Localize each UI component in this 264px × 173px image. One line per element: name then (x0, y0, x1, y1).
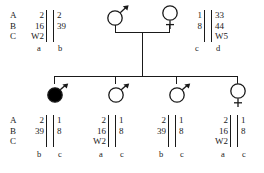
haplotype-block-mother-c: 1 8 (188, 10, 202, 31)
locus-label-b: B (10, 126, 17, 137)
haplotype-block-father-a: 2 16 W2 (22, 10, 44, 42)
allele-locus-b: 8 (57, 126, 74, 137)
haplotype-letter-child-3-right: c (176, 150, 188, 159)
allele-locus-a: 2 (80, 115, 106, 126)
allele-a-locus-a: 2 (22, 10, 44, 21)
allele-locus-a: 2 (144, 115, 166, 126)
mating-stub-father (115, 25, 116, 33)
locus-label-a: A (10, 10, 17, 21)
locus-label-c: C (10, 31, 17, 42)
haplotype-block-child-2-left: 2 16 W2 (80, 115, 106, 147)
haplotype-bar (115, 115, 116, 147)
haplotype-letter-child-4-left: a (217, 150, 229, 159)
locus-label-b: B (10, 21, 17, 32)
haplotype-block-child-4-right: 1 8 (237, 115, 258, 136)
haplotype-letter-child-1-left: b (33, 150, 45, 159)
haplotype-bar (237, 115, 238, 147)
haplotype-block-child-4-left: 2 16 W2 (202, 115, 228, 147)
haplotype-letter-mother-c: c (191, 44, 203, 53)
haplotype-block-child-1-left: 2 39 (22, 115, 44, 136)
haplotype-letter-father-a: a (33, 44, 45, 53)
allele-d-locus-c: W5 (215, 31, 239, 42)
allele-locus-b: 16 (202, 126, 228, 137)
haplotype-letter-father-b: b (54, 44, 66, 53)
haplotype-block-mother-d: 33 44 W5 (211, 10, 239, 42)
allele-c-locus-a: 1 (188, 10, 202, 21)
locus-labels-bottom: A B C (10, 115, 17, 147)
haplotype-letter-child-4-right: c (238, 150, 250, 159)
allele-a-locus-c: W2 (22, 31, 44, 42)
mating-stub-mother (169, 25, 170, 33)
allele-b-locus-b: 39 (57, 21, 74, 32)
haplotype-letter-child-2-left: a (95, 150, 107, 159)
haplotype-bar (168, 115, 169, 147)
haplotype-block-child-1-right: 1 8 (53, 115, 74, 136)
allele-locus-b: 16 (80, 126, 106, 137)
allele-b-locus-a: 2 (57, 10, 74, 21)
allele-locus-a: 1 (119, 115, 136, 126)
haplotype-bar (46, 115, 47, 147)
individual-child-2-mars-icon[interactable] (107, 83, 123, 105)
allele-a-locus-b: 16 (22, 21, 44, 32)
haplotype-bar (53, 10, 54, 42)
haplotype-letter-mother-d: d (212, 44, 224, 53)
individual-child-1-mars-icon-affected[interactable] (46, 83, 62, 105)
haplotype-bar (46, 10, 47, 42)
haplotype-bar (211, 10, 212, 42)
allele-d-locus-b: 44 (215, 21, 239, 32)
allele-c-locus-b: 8 (188, 21, 202, 32)
haplotype-bar (108, 115, 109, 147)
allele-locus-a: 2 (22, 115, 44, 126)
locus-labels-top: A B C (10, 10, 17, 42)
haplotype-bar (230, 115, 231, 147)
allele-locus-a: 2 (202, 115, 228, 126)
individual-child-3-mars-icon[interactable] (168, 83, 184, 105)
allele-locus-b: 39 (22, 126, 44, 137)
allele-locus-a: 1 (57, 115, 74, 126)
allele-locus-b: 8 (179, 126, 196, 137)
haplotype-block-child-3-left: 2 39 (144, 115, 166, 136)
allele-locus-b: 8 (241, 126, 258, 137)
descent-line (142, 32, 143, 76)
haplotype-block-father-b: 2 39 (53, 10, 74, 31)
haplotype-letter-child-3-left: b (155, 150, 167, 159)
individual-child-4-venus-icon[interactable] (230, 83, 246, 105)
allele-locus-b: 8 (119, 126, 136, 137)
locus-label-c: C (10, 136, 17, 147)
allele-d-locus-a: 33 (215, 10, 239, 21)
pedigree-figure: A B C 2 16 W2 a 2 39 b 1 8 c 33 44 W5 d (0, 0, 264, 173)
individual-mother-venus-icon[interactable] (160, 4, 176, 26)
haplotype-letter-child-2-right: c (116, 150, 128, 159)
haplotype-block-child-2-right: 1 8 (115, 115, 136, 136)
allele-locus-a: 1 (179, 115, 196, 126)
locus-label-a: A (10, 115, 17, 126)
allele-locus-a: 1 (241, 115, 258, 126)
haplotype-bar (204, 10, 205, 42)
allele-locus-b: 39 (144, 126, 166, 137)
sibship-line (54, 76, 237, 77)
haplotype-block-child-3-right: 1 8 (175, 115, 196, 136)
allele-locus-c: W2 (202, 136, 228, 147)
haplotype-bar (175, 115, 176, 147)
individual-father-mars-icon[interactable] (106, 4, 122, 26)
haplotype-bar (53, 115, 54, 147)
allele-locus-c: W2 (80, 136, 106, 147)
haplotype-letter-child-1-right: c (54, 150, 66, 159)
